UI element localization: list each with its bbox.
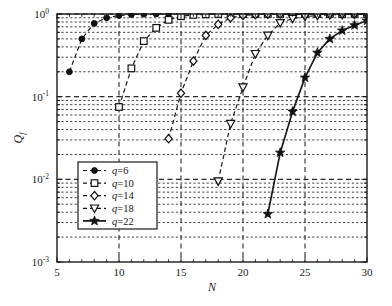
legend-entry-label: q=18 [112, 203, 134, 214]
x-tick-label: 25 [300, 266, 312, 278]
x-tick-label: 20 [238, 266, 250, 278]
marker-filled-circle [92, 168, 98, 174]
data-point-marker [67, 69, 73, 75]
marker-square [116, 104, 123, 111]
marker-square [91, 180, 98, 187]
legend-entry-label: q=14 [112, 190, 134, 201]
y-tick-labels: 10010-110-210-3 [32, 7, 50, 269]
legend: q=6q=10q=14q=18q=22 [78, 162, 157, 229]
marker-filled-circle [67, 69, 73, 75]
x-tick-labels: 51015202530 [54, 266, 373, 278]
data-point-marker [141, 38, 148, 45]
marker-square [128, 65, 135, 72]
legend-entry-label: q=6 [112, 165, 128, 176]
data-point-marker [79, 36, 85, 42]
marker-filled-circle [79, 36, 85, 42]
marker-square [141, 38, 148, 45]
y-tick-label: 100 [34, 7, 49, 21]
marker-square [165, 17, 172, 24]
x-tick-label: 15 [176, 266, 188, 278]
chart-figure: 10010-110-210-351015202530NQfq=6q=10q=14… [0, 0, 392, 306]
y-tick-label: 10-1 [32, 89, 49, 103]
x-tick-label: 30 [362, 266, 374, 278]
data-point-marker [91, 180, 98, 187]
y-tick-label: 10-2 [32, 172, 49, 186]
y-axis-label: Qf [11, 131, 27, 144]
data-point-marker [91, 20, 97, 26]
y-tick-label: 10-3 [32, 255, 49, 269]
x-axis-label: N [207, 280, 217, 294]
x-tick-label: 10 [114, 266, 126, 278]
chart-svg: 10010-110-210-351015202530NQfq=6q=10q=14… [0, 0, 392, 306]
marker-filled-circle [91, 20, 97, 26]
data-point-marker [153, 25, 160, 32]
data-point-marker [165, 17, 172, 24]
data-point-marker [92, 168, 98, 174]
marker-square [153, 25, 160, 32]
legend-entry-label: q=22 [112, 216, 134, 227]
data-point-marker [116, 104, 123, 111]
data-point-marker [128, 65, 135, 72]
legend-entry-label: q=10 [112, 178, 134, 189]
x-tick-label: 5 [54, 266, 60, 278]
